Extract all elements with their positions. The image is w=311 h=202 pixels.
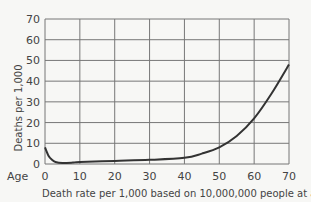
y-tick-label: 30: [26, 96, 40, 109]
death-rate-chart: 010203040506070 010203040506070 Deaths p…: [0, 0, 311, 202]
x-tick-label: 20: [108, 170, 122, 183]
y-tick-label: 40: [26, 75, 40, 88]
x-axis-ticks: 010203040506070: [42, 170, 297, 183]
x-axis-label: Death rate per 1,000 based on 10,000,000…: [42, 188, 311, 199]
x-tick-label: 70: [282, 170, 296, 183]
y-tick-label: 20: [26, 117, 40, 130]
y-axis-label: Deaths per 1,000: [13, 64, 24, 151]
y-axis-ticks: 010203040506070: [26, 13, 40, 171]
x-tick-label: 50: [212, 170, 226, 183]
y-tick-label: 0: [33, 158, 40, 171]
y-tick-label: 70: [26, 13, 40, 26]
x-tick-label: 40: [177, 170, 191, 183]
x-tick-label: 10: [73, 170, 87, 183]
x-tick-label: 60: [247, 170, 261, 183]
y-tick-label: 60: [26, 34, 40, 47]
x-tick-label: 30: [143, 170, 157, 183]
y-tick-label: 50: [26, 54, 40, 67]
x-tick-label: 0: [42, 170, 49, 183]
grid: [45, 19, 289, 164]
y-tick-label: 10: [26, 137, 40, 150]
x-axis-prefix-label: Age: [7, 170, 29, 183]
death-rate-curve: [45, 65, 289, 163]
